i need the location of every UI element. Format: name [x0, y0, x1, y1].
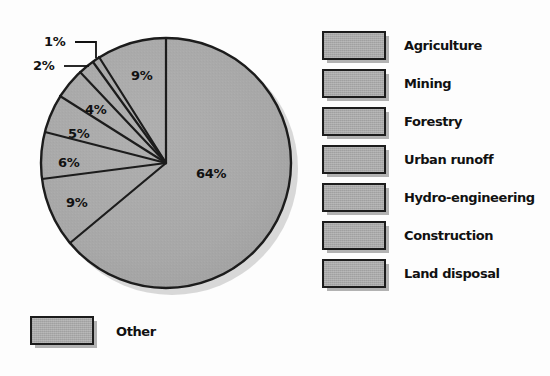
slice-label-hydro-engineering: 5% — [68, 126, 89, 141]
callout-label-other: 1% — [44, 34, 65, 49]
swatch-fill — [322, 31, 386, 60]
legend-swatch-hydro-engineering — [322, 183, 392, 217]
legend-item-forestry[interactable]: Forestry — [322, 104, 546, 142]
legend-label-forestry: Forestry — [404, 114, 462, 129]
slice-label-forestry: 9% — [66, 195, 87, 210]
legend-item-mining[interactable]: Mining — [322, 66, 546, 104]
swatch-texture — [324, 223, 384, 248]
legend-swatch-forestry — [322, 107, 392, 141]
legend-swatch-other — [30, 316, 100, 350]
swatch-fill — [322, 259, 386, 288]
legend-item-hydro-engineering[interactable]: Hydro-engineering — [322, 180, 546, 218]
swatch-texture — [324, 185, 384, 210]
legend-item-other[interactable]: Other — [30, 312, 270, 360]
pie-chart: 9% 4% 5% 6% 9% 64% 1% 2% — [0, 0, 310, 300]
swatch-texture — [324, 33, 384, 58]
swatch-fill — [322, 183, 386, 212]
slice-label-agriculture: 64% — [196, 166, 226, 181]
callout-label-land-disposal: 2% — [33, 58, 54, 73]
legend-item-construction[interactable]: Construction — [322, 218, 546, 256]
swatch-fill — [30, 316, 94, 345]
swatch-fill — [322, 107, 386, 136]
swatch-fill — [322, 69, 386, 98]
legend: Agriculture Mining Forestry — [322, 28, 546, 294]
slice-label-mining: 9% — [131, 68, 152, 83]
legend-label-agriculture: Agriculture — [404, 38, 482, 53]
legend-label-land-disposal: Land disposal — [404, 266, 500, 281]
legend-label-other: Other — [116, 324, 156, 339]
legend-swatch-construction — [322, 221, 392, 255]
slice-label-urban-runoff: 6% — [58, 155, 79, 170]
legend-item-urban-runoff[interactable]: Urban runoff — [322, 142, 546, 180]
legend-swatch-mining — [322, 69, 392, 103]
legend-swatch-urban-runoff — [322, 145, 392, 179]
leader-line-1pct — [75, 42, 96, 58]
chart-page: 9% 4% 5% 6% 9% 64% 1% 2% Agriculture — [0, 0, 550, 376]
legend-label-urban-runoff: Urban runoff — [404, 152, 493, 167]
legend-label-mining: Mining — [404, 76, 451, 91]
swatch-texture — [324, 147, 384, 172]
swatch-texture — [324, 71, 384, 96]
swatch-texture — [32, 318, 92, 343]
legend-label-hydro-engineering: Hydro-engineering — [404, 190, 535, 205]
legend-item-agriculture[interactable]: Agriculture — [322, 28, 546, 66]
swatch-fill — [322, 221, 386, 250]
legend-swatch-land-disposal — [322, 259, 392, 293]
slice-label-construction: 4% — [85, 102, 106, 117]
legend-swatch-agriculture — [322, 31, 392, 65]
legend-item-land-disposal[interactable]: Land disposal — [322, 256, 546, 294]
swatch-texture — [324, 261, 384, 286]
legend-label-construction: Construction — [404, 228, 493, 243]
swatch-texture — [324, 109, 384, 134]
swatch-fill — [322, 145, 386, 174]
